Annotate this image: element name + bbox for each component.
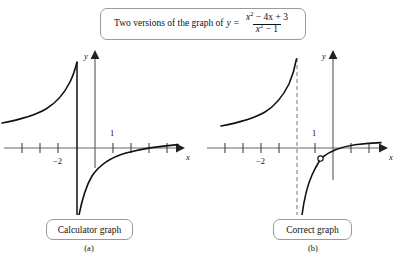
- tick-label-minus-two: −2: [53, 156, 62, 166]
- curve-left-branch: [2, 62, 77, 123]
- curve-left-branch: [221, 59, 297, 126]
- denominator-rest: − 1: [263, 24, 278, 34]
- formula-callout-box: Two versions of the graph of y = x2 − 4x…: [100, 8, 306, 40]
- correct-graph-label-box: Correct graph: [273, 219, 352, 240]
- callout-lead-text: Two versions of the graph of: [114, 19, 223, 29]
- formula-callout-text: Two versions of the graph of y = x2 − 4x…: [114, 13, 292, 35]
- y-axis-label: y: [83, 51, 88, 61]
- correct-graph-label-text: Correct graph: [286, 225, 339, 235]
- curve-right-branch: [79, 145, 178, 215]
- subcaption-a: (a): [59, 243, 119, 253]
- y-axis-arrowhead: [91, 50, 100, 59]
- subcaption-b: (b): [283, 243, 343, 253]
- graph-panel-correct: −2 1 x y: [203, 40, 406, 215]
- open-circle-hole: [318, 156, 323, 161]
- calculator-graph-label-box: Calculator graph: [46, 219, 133, 240]
- formula-denominator: x2 − 1: [253, 24, 281, 35]
- graph-panel-calculator: −2 1 x y: [0, 40, 203, 215]
- numerator-rest: − 4x + 3: [253, 12, 287, 22]
- calculator-graph-svg: −2 1 x y: [0, 40, 203, 215]
- x-axis-label: x: [185, 152, 190, 162]
- formula-numerator: x2 − 4x + 3: [243, 13, 291, 23]
- callout-equals-sign: =: [234, 19, 239, 29]
- formula-fraction: x2 − 4x + 3 x2 − 1: [243, 13, 291, 35]
- y-axis-arrowhead: [329, 50, 338, 59]
- x-axis-label: x: [388, 152, 393, 162]
- tick-label-minus-two: −2: [256, 156, 265, 166]
- y-axis-label: y: [321, 51, 326, 61]
- tick-label-one: 1: [110, 128, 114, 138]
- figure-root: Two versions of the graph of y = x2 − 4x…: [0, 0, 406, 262]
- curve-right-branch-lower: [302, 160, 320, 215]
- tick-label-one: 1: [312, 128, 316, 138]
- callout-variable-y: y: [226, 19, 230, 29]
- calculator-graph-label-text: Calculator graph: [58, 225, 122, 235]
- correct-graph-svg: −2 1 x y: [203, 40, 406, 215]
- x-axis-arrowhead: [379, 144, 388, 153]
